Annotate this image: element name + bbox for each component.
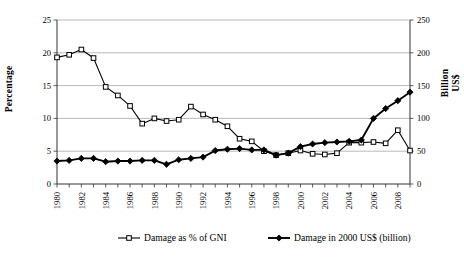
gridlines [57, 20, 410, 151]
chart-legend: Damage as % of GNIDamage in 2000 US$ (bi… [118, 232, 411, 244]
x-axis-tick-labels: 1980198219841986198819901992199419961998… [52, 191, 403, 209]
data-point-marker [276, 235, 282, 241]
data-point-marker [176, 117, 181, 122]
data-point-marker [396, 128, 401, 133]
series-line [57, 92, 410, 164]
x-tick-label: 1994 [223, 191, 233, 209]
data-point-marker [188, 155, 194, 161]
data-point-marker [371, 140, 376, 145]
data-point-marker [164, 119, 169, 124]
series-line [57, 50, 410, 156]
y2-axis-title-line1: Billion [440, 53, 451, 113]
data-point-marker [201, 112, 206, 117]
data-point-marker [54, 158, 60, 164]
y-tick-label: 20 [42, 48, 51, 58]
x-tick-label: 1992 [198, 192, 208, 209]
data-point-marker [78, 155, 84, 161]
x-tick-label: 2000 [296, 192, 306, 209]
data-point-marker [408, 148, 413, 153]
y2-axis-tick-labels: 050100150200250 [417, 15, 430, 189]
plot-frame [57, 20, 410, 184]
series-2 [54, 89, 413, 167]
data-point-marker [115, 158, 121, 164]
x-tick-label: 1988 [150, 192, 160, 209]
data-point-marker [128, 104, 133, 109]
y2-tick-label: 150 [417, 81, 430, 91]
data-point-marker [335, 151, 340, 156]
data-point-marker [55, 55, 60, 60]
x-tick-label: 1980 [52, 192, 62, 209]
data-point-marker [334, 139, 340, 145]
x-tick-label: 1984 [101, 191, 111, 209]
y-tick-label: 0 [47, 179, 51, 189]
x-tick-label: 1998 [271, 192, 281, 209]
x-tick-label: 2004 [344, 191, 354, 209]
y2-tick-label: 250 [417, 15, 430, 25]
data-point-marker [213, 117, 218, 122]
data-point-marker [225, 124, 230, 129]
y2-axis-ticks [410, 20, 414, 184]
legend-label: Damage in 2000 US$ (billion) [294, 232, 411, 244]
data-point-marker [103, 159, 109, 165]
data-point-marker [103, 85, 108, 90]
data-point-marker [90, 155, 96, 161]
data-point-marker [67, 52, 72, 57]
y-axis-title: Percentage [4, 54, 14, 124]
y2-tick-label: 50 [417, 146, 426, 156]
x-tick-label: 2008 [393, 192, 403, 209]
data-point-marker [151, 157, 157, 163]
data-point-marker [249, 147, 255, 153]
data-point-marker [66, 157, 72, 163]
data-point-marker [249, 139, 254, 144]
data-point-marker [322, 140, 328, 146]
y2-axis-title-line2: US$ [451, 53, 462, 113]
y2-tick-label: 200 [417, 48, 430, 58]
x-tick-label: 2002 [320, 192, 330, 209]
chart-figure: 0510152025 050100150200250 1980198219841… [0, 0, 464, 263]
x-tick-label: 2006 [369, 191, 379, 209]
y2-tick-label: 0 [417, 179, 421, 189]
y2-tick-label: 100 [417, 113, 430, 123]
x-tick-label: 1982 [77, 192, 87, 209]
y-tick-label: 5 [47, 146, 51, 156]
data-point-marker [322, 152, 327, 157]
x-tick-label: 1986 [125, 191, 135, 209]
y-tick-label: 10 [42, 113, 51, 123]
data-point-marker [310, 152, 315, 157]
y-axis-tick-labels: 0510152025 [42, 15, 51, 189]
chart-canvas: 0510152025 050100150200250 1980198219841… [0, 0, 464, 263]
x-tick-label: 1996 [247, 191, 257, 209]
data-point-marker [189, 104, 194, 109]
x-axis-ticks [57, 184, 410, 188]
y-tick-label: 15 [42, 81, 51, 91]
x-tick-label: 1990 [174, 192, 184, 209]
series-layer [54, 47, 413, 167]
data-point-marker [237, 136, 242, 141]
data-point-marker [127, 158, 133, 164]
data-point-marker [139, 157, 145, 163]
data-point-marker [127, 236, 132, 241]
data-point-marker [163, 161, 169, 167]
data-point-marker [176, 157, 182, 163]
data-point-marker [140, 121, 145, 126]
data-point-marker [91, 56, 96, 61]
data-point-marker [383, 141, 388, 146]
y2-axis-title: Billion US$ [440, 53, 462, 113]
legend-label: Damage as % of GNI [144, 232, 227, 243]
data-point-marker [236, 145, 242, 151]
data-point-marker [152, 116, 157, 121]
data-point-marker [310, 141, 316, 147]
data-point-marker [116, 93, 121, 98]
data-point-marker [79, 47, 84, 52]
y-tick-label: 25 [42, 15, 51, 25]
